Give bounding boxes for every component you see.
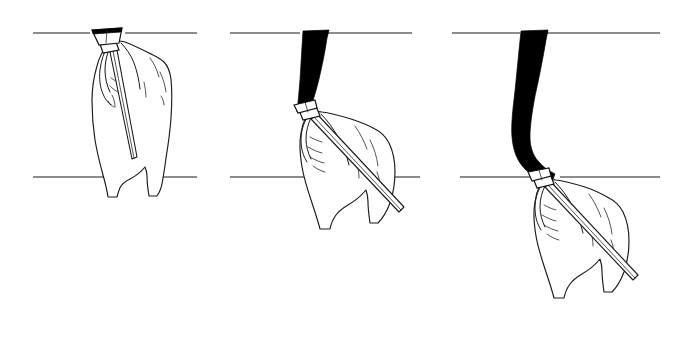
hand-outline-p1 — [92, 41, 172, 197]
calligraphy-figure: Calligraphy broad-pen stroke sequence Ni… — [0, 0, 697, 348]
figure-canvas — [0, 0, 697, 348]
